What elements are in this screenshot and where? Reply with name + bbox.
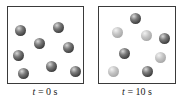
panel-t10-label: t = 10 s bbox=[97, 86, 177, 97]
dark-sphere-icon bbox=[119, 48, 130, 59]
panel-t0-label: t = 0 s bbox=[5, 86, 85, 97]
dark-sphere-icon bbox=[15, 25, 26, 36]
dark-sphere-icon bbox=[18, 68, 29, 79]
light-sphere-icon bbox=[155, 52, 166, 63]
dark-sphere-icon bbox=[13, 50, 24, 61]
dark-sphere-icon bbox=[63, 42, 74, 53]
dark-sphere-icon bbox=[53, 22, 64, 33]
dark-sphere-icon bbox=[46, 61, 57, 72]
dark-sphere-icon bbox=[70, 66, 81, 77]
light-sphere-icon bbox=[112, 27, 123, 38]
dark-sphere-icon bbox=[130, 13, 141, 24]
light-sphere-icon bbox=[108, 66, 119, 77]
light-sphere-icon bbox=[141, 30, 152, 41]
dark-sphere-icon bbox=[159, 33, 170, 44]
time-value: = 10 s bbox=[125, 86, 152, 97]
dark-sphere-icon bbox=[142, 66, 153, 77]
time-value: = 0 s bbox=[35, 86, 57, 97]
dark-sphere-icon bbox=[34, 38, 45, 49]
